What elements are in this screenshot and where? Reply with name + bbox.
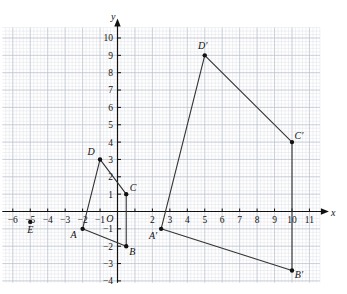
x-tick-label: 7 [237, 215, 242, 225]
y-tick-label: −1 [103, 224, 113, 234]
point-label: D′ [197, 40, 208, 51]
point-label: B [129, 246, 135, 257]
y-tick-label: 10 [104, 33, 114, 43]
y-tick-label: 3 [108, 155, 113, 165]
y-tick-label: 7 [108, 85, 113, 95]
x-tick-label: −4 [43, 215, 53, 225]
graph-figure: −6−5−4−3−2−1234567891011−4−3−2−112345678… [0, 0, 347, 294]
data-point [80, 227, 84, 231]
coordinate-plane-svg: −6−5−4−3−2−1234567891011−4−3−2−112345678… [0, 0, 347, 294]
y-tick-label: 9 [108, 51, 113, 61]
minor-gridlines [2, 28, 320, 283]
y-tick-label: −2 [103, 242, 113, 252]
x-tick-label: 5 [202, 215, 207, 225]
y-tick-label: 6 [108, 103, 113, 113]
x-tick-label: 3 [167, 215, 172, 225]
x-tick-label: 8 [255, 215, 260, 225]
x-tick-label: 2 [150, 215, 155, 225]
point-label: A′ [148, 230, 158, 241]
y-tick-label: 8 [108, 68, 113, 78]
point-label: C′ [295, 130, 305, 141]
x-tick-label: −6 [8, 215, 18, 225]
x-axis-label: x [330, 207, 336, 218]
x-tick-label: 9 [272, 215, 277, 225]
point-label: A [70, 229, 78, 240]
point-label: B′ [295, 269, 304, 280]
axis-tick-labels: −6−5−4−3−2−1234567891011−4−3−2−112345678… [8, 33, 315, 286]
point-label: E [26, 224, 33, 235]
point-label: C [130, 182, 137, 193]
point-label: D [86, 146, 95, 157]
y-tick-label: 4 [108, 138, 113, 148]
x-tick-label: −1 [95, 215, 105, 225]
y-tick-label: 5 [108, 120, 113, 130]
data-point [124, 244, 128, 248]
x-tick-label: 11 [305, 215, 314, 225]
data-point [203, 53, 207, 57]
data-point [159, 227, 163, 231]
data-point [98, 157, 102, 161]
origin-label: O [106, 213, 113, 224]
y-axis-label: y [110, 11, 116, 22]
data-point [124, 192, 128, 196]
axis-names: xyO [106, 11, 336, 224]
y-tick-label: −3 [103, 259, 113, 269]
x-tick-label: −3 [60, 215, 70, 225]
x-tick-label: 6 [220, 215, 225, 225]
y-tick-label: 1 [108, 190, 113, 200]
x-tick-label: 4 [185, 215, 190, 225]
data-point [290, 140, 294, 144]
data-point [290, 268, 294, 272]
y-tick-label: −4 [103, 276, 113, 286]
